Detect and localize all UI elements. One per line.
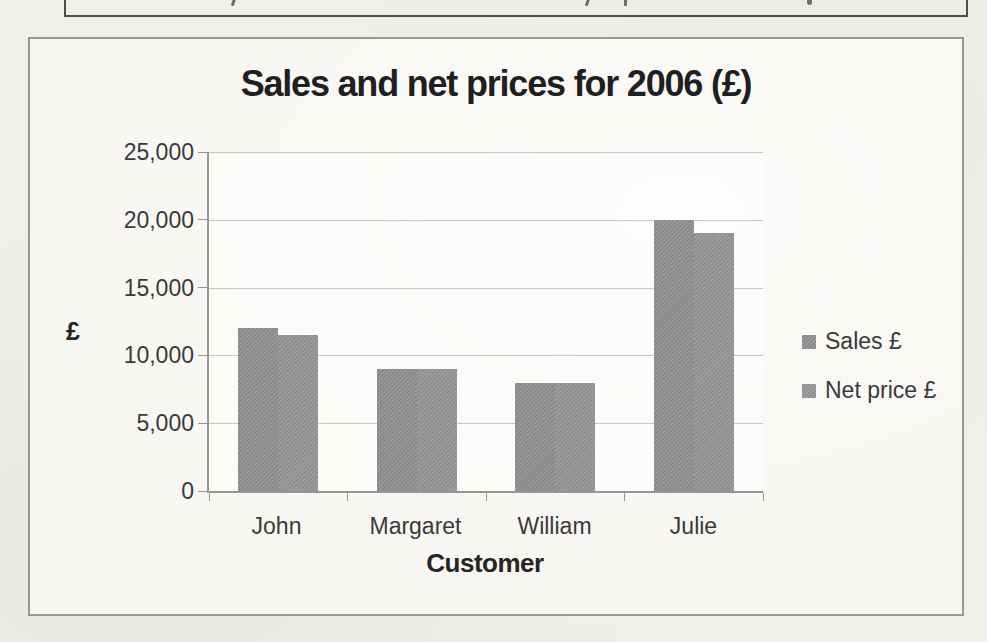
x-axis-category-label: Margaret — [346, 513, 485, 540]
y-axis-tick-labels: 25,00020,00015,00010,0005,0000 — [30, 152, 194, 491]
legend-item-sales: Sales £ — [802, 328, 936, 355]
y-axis-tick — [198, 423, 208, 424]
legend-item-net-price: Net price £ — [802, 377, 936, 404]
y-axis-tick-label: 15,000 — [30, 274, 194, 302]
x-axis-title: Customer — [207, 548, 763, 579]
y-axis-tick — [198, 219, 208, 220]
y-axis-tick-label: 0 — [30, 477, 194, 505]
y-axis-tick-label: 10,000 — [30, 341, 194, 369]
bar-group-julie — [625, 152, 764, 491]
bar-group-margaret — [348, 152, 487, 491]
scanned-page: Sales and net prices for 2006 (£) £ 25,0… — [0, 0, 987, 642]
legend-label-sales: Sales £ — [825, 328, 902, 355]
bar-julie-sales — [654, 220, 694, 491]
legend-label-net-price: Net price £ — [825, 377, 936, 404]
x-axis-tick — [486, 493, 487, 501]
bar-julie-net-price — [694, 233, 734, 491]
bar-john-sales — [238, 328, 278, 491]
plot-area — [207, 152, 763, 493]
legend-marker-net-price-icon — [802, 384, 816, 398]
chart-container: Sales and net prices for 2006 (£) £ 25,0… — [28, 37, 964, 616]
x-axis-category-label: John — [207, 513, 346, 540]
y-axis-tick-label: 25,000 — [30, 138, 194, 166]
legend: Sales £ Net price £ — [802, 328, 936, 404]
y-axis-tick — [198, 355, 208, 356]
x-axis-category-label: Julie — [624, 513, 763, 540]
cropped-text-remnant-mark — [807, 0, 812, 5]
x-axis-tick — [624, 493, 625, 501]
bar-group-william — [486, 152, 625, 491]
x-axis-category-label: William — [485, 513, 624, 540]
cropped-text-remnant-mark — [624, 0, 627, 6]
bar-group-john — [209, 152, 348, 491]
x-axis-tick — [763, 493, 764, 501]
y-axis-tick-label: 5,000 — [30, 409, 194, 437]
x-axis-tick — [347, 493, 348, 501]
y-axis-tick — [198, 152, 208, 153]
x-axis-tick — [209, 493, 210, 501]
cropped-text-box — [64, 0, 968, 17]
chart-title: Sales and net prices for 2006 (£) — [30, 63, 962, 105]
bar-william-net-price — [555, 383, 595, 491]
bar-margaret-net-price — [417, 369, 457, 491]
y-axis-tick — [198, 491, 208, 492]
x-axis-category-labels: JohnMargaretWilliamJulie — [207, 513, 763, 540]
y-axis-tick — [198, 287, 208, 288]
cropped-text-remnant-mark — [585, 0, 590, 6]
y-axis-tick-label: 20,000 — [30, 206, 194, 234]
bar-william-sales — [515, 383, 555, 491]
legend-marker-sales-icon — [802, 335, 816, 349]
bar-john-net-price — [278, 335, 318, 491]
cropped-text-remnant-mark — [231, 0, 236, 6]
bar-margaret-sales — [377, 369, 417, 491]
